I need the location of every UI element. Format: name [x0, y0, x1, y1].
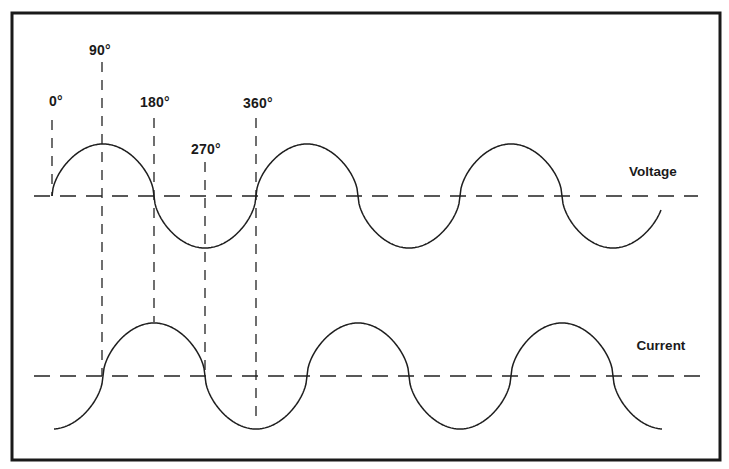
angle-label-90: 90° — [89, 42, 111, 58]
voltage-label: Voltage — [629, 164, 677, 179]
diagram-frame — [12, 13, 720, 460]
angle-label-270: 270° — [191, 141, 221, 157]
angle-label-0: 0° — [49, 93, 63, 109]
angle-label-360: 360° — [243, 95, 273, 111]
current-label: Current — [637, 338, 686, 353]
waveforms — [52, 144, 662, 429]
angle-label-180: 180° — [140, 94, 170, 110]
phase-diagram — [0, 0, 729, 469]
